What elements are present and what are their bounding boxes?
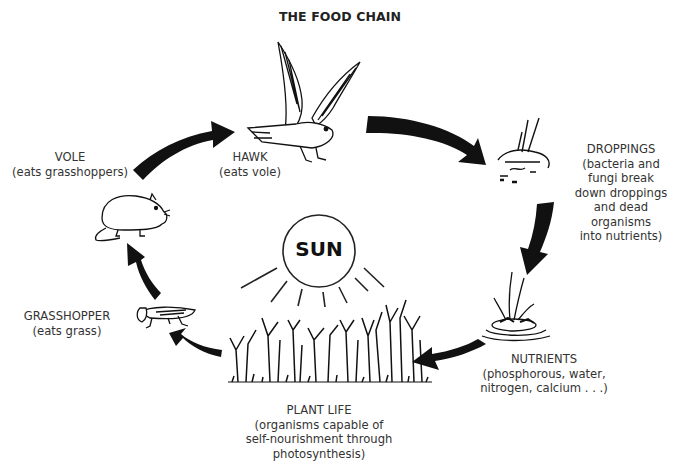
hawk-icon: [248, 42, 360, 162]
node-droppings: DROPPINGS (bacteria and fungi break down…: [562, 142, 680, 244]
node-desc: fungi break: [562, 171, 680, 186]
node-name: GRASSHOPPER: [8, 309, 126, 324]
node-desc: nitrogen, calcium . . .): [470, 381, 618, 396]
grasshopper-icon: [137, 307, 195, 328]
node-name: VOLE: [6, 150, 134, 165]
arrow-grasshopper-to-vole: [127, 243, 161, 300]
node-desc: (bacteria and: [562, 157, 680, 172]
node-hawk: HAWK (eats vole): [208, 150, 292, 179]
node-desc: photosynthesis): [236, 447, 402, 462]
node-desc: down droppings: [562, 186, 680, 201]
node-name: NUTRIENTS: [470, 352, 618, 367]
node-desc: and dead organisms: [562, 200, 680, 229]
node-name: PLANT LIFE: [236, 403, 402, 418]
plants-icon: [228, 300, 432, 382]
node-grasshopper: GRASSHOPPER (eats grass): [8, 309, 126, 338]
sun-label: SUN: [283, 237, 355, 261]
node-vole: VOLE (eats grasshoppers): [6, 150, 134, 179]
node-plant-life: PLANT LIFE (organisms capable of self-no…: [236, 403, 402, 461]
vole-icon: [95, 194, 170, 241]
node-desc: (eats grasshoppers): [6, 165, 134, 180]
node-desc: self-nourishment through: [236, 432, 402, 447]
sun-icon: [241, 215, 384, 307]
arrow-droppings-to-nutrients: [520, 202, 554, 275]
node-desc: (phosphorous, water,: [470, 367, 618, 382]
node-desc: into nutrients): [562, 229, 680, 244]
droppings-icon: [498, 118, 549, 182]
node-name: HAWK: [208, 150, 292, 165]
arrow-hawk-to-droppings: [366, 116, 486, 165]
nutrients-icon: [482, 272, 550, 341]
node-desc: (organisms capable of: [236, 418, 402, 433]
node-nutrients: NUTRIENTS (phosphorous, water, nitrogen,…: [470, 352, 618, 396]
node-desc: (eats vole): [208, 165, 292, 180]
arrow-plants-to-grasshopper: [169, 328, 222, 357]
node-desc: (eats grass): [8, 324, 126, 339]
node-name: DROPPINGS: [562, 142, 680, 157]
